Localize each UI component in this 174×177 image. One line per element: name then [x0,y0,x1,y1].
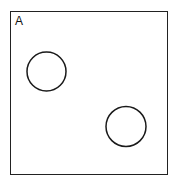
diagram-canvas [0,0,174,177]
circle-upper-left [27,52,66,91]
circle-lower-right [106,107,146,147]
